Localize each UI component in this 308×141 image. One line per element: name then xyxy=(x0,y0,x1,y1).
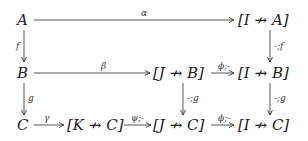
label-g: g xyxy=(28,94,34,103)
node-c: C xyxy=(17,118,28,133)
label-psi: ψ;- xyxy=(131,114,144,123)
label-gamma: γ xyxy=(44,114,49,123)
node-i-b: [I ↛ B] xyxy=(238,66,289,81)
node-j-c: [J ↛ C] xyxy=(153,118,204,133)
label-phi-b: ϕ;- xyxy=(218,62,230,71)
node-i-c: [I ↛ C] xyxy=(238,118,289,133)
label-neg-g-i: -;g xyxy=(274,94,286,103)
node-k-c: [K ↛ C] xyxy=(67,118,124,133)
label-alpha: α xyxy=(141,9,147,18)
node-a: A xyxy=(17,13,28,28)
label-f: f xyxy=(16,42,19,51)
node-b: B xyxy=(17,66,28,81)
node-j-b: [J ↛ B] xyxy=(153,66,204,81)
node-i-a: [I ↛ A] xyxy=(238,13,289,28)
label-neg-f: -;f xyxy=(274,42,283,51)
label-beta: β xyxy=(101,62,106,71)
label-phi-c: ϕ;- xyxy=(218,114,230,123)
label-neg-g-j: -;g xyxy=(187,94,199,103)
